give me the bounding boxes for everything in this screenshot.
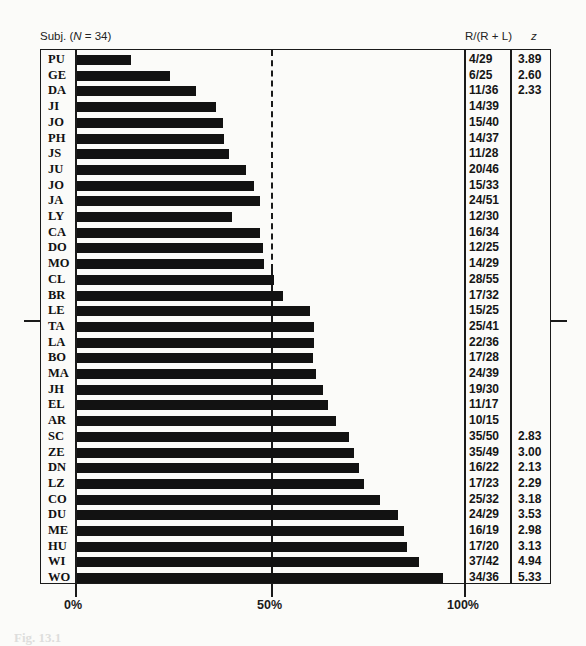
bar [77,259,264,269]
table-row: BO17/28 [0,350,586,366]
subject-label: JH [48,382,75,398]
subject-count-header: Subj. (N = 34) [40,30,111,42]
bar [77,118,223,128]
subj-suffix: = 34) [82,30,112,42]
bar-rows: PU4/293.89GE6/252.60DA11/362.33JI14/39JO… [0,52,586,588]
z-value: 3.18 [518,492,541,508]
z-value: 2.98 [518,523,541,539]
subj-prefix: Subj. ( [40,30,73,42]
bar [77,338,314,348]
ratio-value: 37/42 [469,554,499,570]
subject-label: LY [48,209,75,225]
bar [77,353,313,363]
table-row: DU24/293.53 [0,507,586,523]
ratio-value: 17/32 [469,288,499,304]
subject-label: DU [48,507,75,523]
table-row: EL11/17 [0,397,586,413]
z-value: 3.13 [518,539,541,555]
z-value: 5.33 [518,570,541,586]
x-tick-100: 100% [447,598,479,612]
ratio-column-header: R/(R + L) [465,30,512,42]
subject-label: CL [48,272,75,288]
table-row: CO25/323.18 [0,492,586,508]
x-tick-0: 0% [64,598,82,612]
subject-label: WO [48,570,75,586]
ratio-value: 24/39 [469,366,499,382]
z-value: 2.60 [518,68,541,84]
z-value: 4.94 [518,554,541,570]
ratio-value: 4/29 [469,52,492,68]
subject-label: WI [48,554,75,570]
subject-label: LZ [48,476,75,492]
bar [77,400,328,410]
table-row: DA11/362.33 [0,83,586,99]
ratio-value: 19/30 [469,382,499,398]
bar [77,275,274,285]
table-row: JI14/39 [0,99,586,115]
bar [77,243,263,253]
ratio-value: 28/55 [469,272,499,288]
table-row: PU4/293.89 [0,52,586,68]
table-row: ME16/192.98 [0,523,586,539]
ratio-value: 17/20 [469,539,499,555]
subject-label: JO [48,178,75,194]
subject-label: TA [48,319,75,335]
subject-label: EL [48,397,75,413]
bar [77,71,170,81]
bar [77,463,359,473]
ratio-value: 35/50 [469,429,499,445]
table-row: CA16/34 [0,225,586,241]
table-row: SC35/502.83 [0,429,586,445]
bar [77,212,232,222]
subject-label: JI [48,99,75,115]
ratio-value: 17/23 [469,476,499,492]
ratio-value: 15/40 [469,115,499,131]
ratio-value: 35/49 [469,445,499,461]
table-row: JU20/46 [0,162,586,178]
ratio-value: 24/51 [469,193,499,209]
ratio-value: 20/46 [469,162,499,178]
table-row: BR17/32 [0,288,586,304]
ratio-value: 17/28 [469,350,499,366]
subject-label: MA [48,366,75,382]
subject-label: JS [48,146,75,162]
z-value: 2.13 [518,460,541,476]
ratio-value: 16/22 [469,460,499,476]
table-row: JA24/51 [0,193,586,209]
table-row: WI37/424.94 [0,554,586,570]
subject-label: JU [48,162,75,178]
bar [77,322,314,332]
subject-label: JA [48,193,75,209]
bar [77,86,196,96]
table-row: DO12/25 [0,240,586,256]
z-value: 2.83 [518,429,541,445]
ratio-value: 14/39 [469,99,499,115]
bar [77,495,380,505]
bar [77,196,260,206]
subject-label: HU [48,539,75,555]
subject-label: JO [48,115,75,131]
bar [77,55,131,65]
ratio-value: 15/33 [469,178,499,194]
bar [77,228,260,238]
ratio-value: 6/25 [469,68,492,84]
table-row: GE6/252.60 [0,68,586,84]
table-row: TA25/41 [0,319,586,335]
table-row: MA24/39 [0,366,586,382]
subject-label: CO [48,492,75,508]
table-row: LA22/36 [0,335,586,351]
table-row: LZ17/232.29 [0,476,586,492]
z-value: 2.33 [518,83,541,99]
ratio-value: 11/28 [469,146,498,162]
z-value: 3.53 [518,507,541,523]
ratio-value: 34/36 [469,570,499,586]
table-row: JO15/40 [0,115,586,131]
ratio-value: 11/36 [469,83,498,99]
bar [77,416,336,426]
table-row: LE15/25 [0,303,586,319]
bar [77,557,419,567]
table-row: PH14/37 [0,131,586,147]
figure-caption: Fig. 13.1 [14,630,61,646]
bar [77,479,364,489]
subject-label: LE [48,303,75,319]
